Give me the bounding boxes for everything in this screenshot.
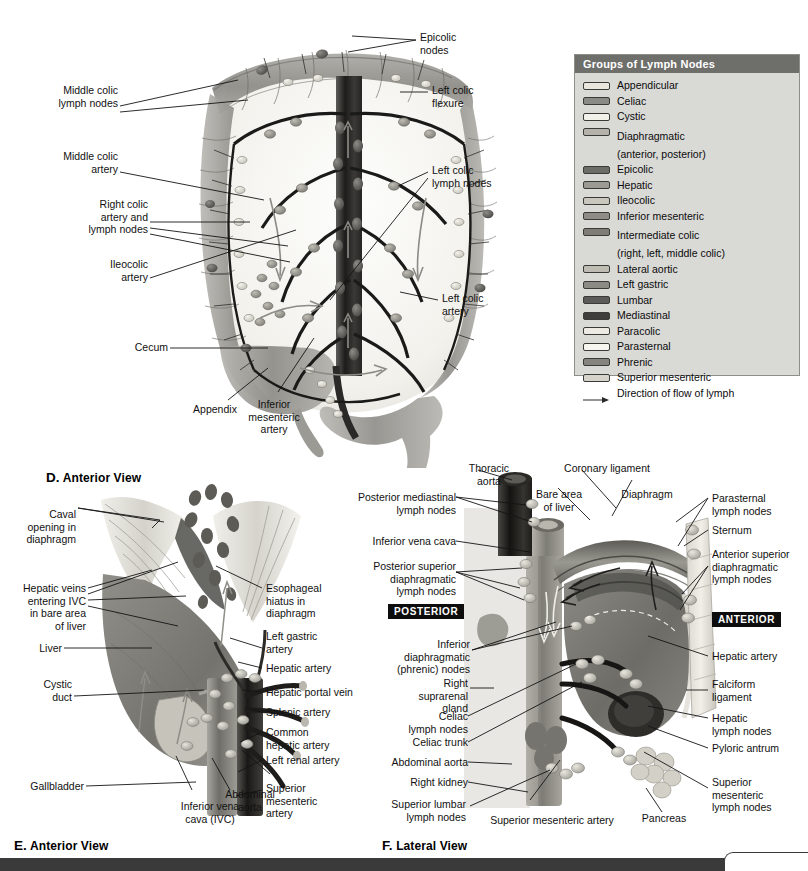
label-hepatic-veins-entering-ivc: Hepatic veins entering IVC in bare area … [0,582,86,632]
legend-title: Groups of Lymph Nodes [575,55,799,73]
label-left-gastric-artery: Left gastric artery [266,630,354,655]
panel-f-illustration [440,468,730,828]
legend-row-left-gastric: Left gastric [583,278,799,292]
panel-e-caption-text: Anterior View [30,839,108,853]
legend-label-appendicular: Appendicular [617,79,678,91]
label-abdominal-aorta-f: Abdominal aorta [368,756,468,769]
panel-e-caption-letter: E. [14,838,27,853]
label-pancreas: Pancreas [634,812,694,825]
legend-row-intermediate-colic: Intermediate colic (right, left, middle … [583,225,799,261]
footer-bar [0,858,808,871]
legend-row-paracolic: Paracolic [583,325,799,339]
legend-row-parasternal: Parasternal [583,340,799,354]
label-inferior-mesenteric-artery: Inferior mesenteric artery [236,398,312,436]
label-posterior-superior-diaphragmatic-lymph-nodes: Posterior superior diaphragmatic lymph n… [352,560,456,598]
legend-sublabel-diaphragmatic: (anterior, posterior) [617,148,706,160]
label-hepatic-lymph-nodes: Hepatic lymph nodes [712,712,802,737]
label-superior-mesenteric-lymph-nodes: Superior mesenteric lymph nodes [712,776,796,814]
legend-swatch-intermediate-colic [583,228,610,236]
legend-swatch-hepatic [583,181,610,189]
panel-e-caption: E. Anterior View [14,838,108,853]
label-right-colic-artery-and-lymph-nodes: Right colic artery and lymph nodes [48,198,148,236]
label-caval-opening-in-diaphragm: Caval opening in diaphragm [0,508,76,546]
legend-swatch-lateral-aortic [583,265,610,273]
label-thoracic-aorta: Thoracic aorta [458,462,520,487]
legend-label-celiac: Celiac [617,95,646,107]
label-splenic-artery: Splenic artery [266,706,362,719]
legend-swatch-mediastinal [583,312,610,320]
label-superior-mesenteric-artery-f: Superior mesenteric artery [478,814,626,827]
label-hepatic-artery-f: Hepatic artery [712,650,808,663]
label-epicolic-nodes: Epicolic nodes [420,31,510,56]
orientation-posterior-badge: POSTERIOR [388,604,464,619]
label-left-colic-flexure: Left colic flexure [432,84,522,109]
legend-row-mediastinal: Mediastinal [583,309,799,323]
legend-label-mediastinal: Mediastinal [617,309,670,321]
footer-page-tab [724,852,808,871]
label-diaphragm: Diaphragm [612,488,682,501]
legend-panel: Groups of Lymph Nodes Appendicular Celia… [574,54,800,376]
label-posterior-mediastinal-lymph-nodes: Posterior mediastinal lymph nodes [352,491,456,516]
legend-sublabel-intermediate-colic: (right, left, middle colic) [617,247,725,259]
legend-swatch-cystic [583,113,610,121]
atlas-page: Middle colic lymph nodes Middle colic ar… [0,0,808,871]
legend-row-cystic: Cystic [583,110,799,124]
legend-row-flow-direction: Direction of flow of lymph [583,387,799,408]
legend-row-inferior-mesenteric: Inferior mesenteric [583,210,799,224]
label-right-kidney: Right kidney [384,776,468,789]
label-abdominal-aorta-e: Abdominal aorta [216,788,284,813]
legend-swatch-parasternal [583,343,610,351]
legend-swatch-epicolic [583,166,610,174]
label-esophageal-hiatus: Esophageal hiatus in diaphragm [266,582,358,620]
legend-swatch-left-gastric [583,281,610,289]
legend-swatch-diaphragmatic [583,128,610,136]
legend-row-superior-mesenteric: Superior mesenteric [583,371,799,385]
legend-swatch-celiac [583,97,610,105]
label-parasternal-lymph-nodes: Parasternal lymph nodes [712,492,802,517]
label-middle-colic-lymph-nodes: Middle colic lymph nodes [30,84,118,109]
label-superior-lumbar-lymph-nodes: Superior lumbar lymph nodes [366,798,466,823]
label-left-colic-lymph-nodes: Left colic lymph nodes [432,164,528,189]
legend-label-ileocolic: Ileocolic [617,194,655,206]
label-ileocolic-artery: Ileocolic artery [60,258,148,283]
label-left-renal-artery: Left renal artery [266,754,362,767]
label-celiac-lymph-nodes: Celiac lymph nodes [380,710,468,735]
orientation-anterior-badge: ANTERIOR [712,612,781,627]
legend-label-inferior-mesenteric: Inferior mesenteric [617,210,704,222]
legend-row-diaphragmatic: Diaphragmatic (anterior, posterior) [583,126,799,162]
label-falciform-ligament: Falciform ligament [712,678,792,703]
panel-d-caption-letter: D. [46,470,60,485]
legend-label-phrenic: Phrenic [617,356,653,368]
legend-label-diaphragmatic: Diaphragmatic [617,130,685,142]
legend-row-phrenic: Phrenic [583,356,799,370]
legend-row-celiac: Celiac [583,95,799,109]
legend-swatch-superior-mesenteric [583,374,610,382]
label-liver: Liver [0,642,62,655]
legend-label-lumbar: Lumbar [617,294,653,306]
label-celiac-trunk: Celiac trunk [382,736,468,749]
label-cecum: Cecum [90,341,168,354]
label-common-hepatic-artery: Common hepatic artery [266,726,350,751]
legend-swatch-appendicular [583,82,610,90]
legend-label-lateral-aortic: Lateral aortic [617,263,678,275]
label-inferior-diaphragmatic-phrenic-nodes: Inferior diaphragmatic (phrenic) nodes [370,638,470,676]
legend-row-lumbar: Lumbar [583,294,799,308]
legend-items: Appendicular Celiac Cystic Diaphragmatic… [575,73,799,408]
legend-row-appendicular: Appendicular [583,79,799,93]
legend-swatch-lumbar [583,296,610,304]
legend-label-flow-direction: Direction of flow of lymph [617,387,734,399]
label-inferior-vena-cava-f: Inferior vena cava [356,535,456,548]
flow-arrow-icon [583,390,610,408]
label-gallbladder: Gallbladder [0,780,84,793]
legend-swatch-inferior-mesenteric [583,212,610,220]
legend-label-left-gastric: Left gastric [617,278,668,290]
legend-swatch-ileocolic [583,197,610,205]
legend-row-ileocolic: Ileocolic [583,194,799,208]
label-hepatic-portal-vein: Hepatic portal vein [266,686,378,699]
label-bare-area-of-liver: Bare area of liver [528,488,590,513]
legend-label-paracolic: Paracolic [617,325,660,337]
legend-row-hepatic: Hepatic [583,179,799,193]
label-right-suprarenal-gland: Right suprarenal gland [388,677,468,715]
label-sternum: Sternum [712,524,792,537]
legend-label-intermediate-colic: Intermediate colic [617,229,699,241]
